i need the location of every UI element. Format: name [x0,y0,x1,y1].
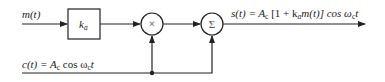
input-label: m(t) [22,8,41,21]
carrier-label: c(t) = Ac cos ωct [22,58,95,72]
gain-label: ka [79,18,88,32]
adder-symbol: Σ [209,18,215,30]
am-modulator-diagram: m(t) ka × Σ s(t) = Ac [1 + kam(t)] cos ω… [0,0,385,82]
multiplier-symbol: × [149,17,156,31]
junction-dot [150,71,154,75]
output-label: s(t) = Ac [1 + kam(t)] cos ωct [231,7,359,21]
